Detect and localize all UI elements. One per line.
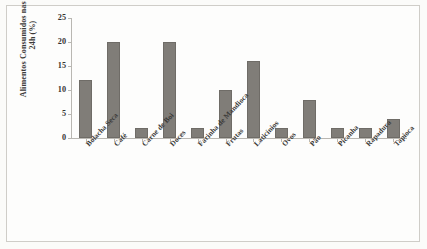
bar-slot bbox=[295, 18, 323, 138]
y-axis-title-line-2: 24h (%) bbox=[28, 21, 37, 50]
y-tick-label: 0 bbox=[62, 133, 66, 142]
x-label-slot: Frutas bbox=[211, 141, 239, 233]
bar-slot bbox=[128, 18, 156, 138]
x-label-slot: Carne de Boi bbox=[127, 141, 155, 233]
bar[interactable] bbox=[79, 80, 92, 138]
bar-slot bbox=[351, 18, 379, 138]
x-label-slot: Ovos bbox=[267, 141, 295, 233]
x-label-slot: Doces bbox=[155, 141, 183, 233]
bar-slot bbox=[184, 18, 212, 138]
bar-series bbox=[72, 18, 407, 138]
y-tick-label: 15 bbox=[58, 61, 66, 70]
bar-slot bbox=[240, 18, 268, 138]
plot-area: 0510152025 bbox=[71, 18, 407, 139]
chart-figure: Alimentos Consumidos nas últimas 24h (%)… bbox=[0, 0, 427, 249]
bar-slot bbox=[323, 18, 351, 138]
bar-slot bbox=[72, 18, 100, 138]
y-axis-title: Alimentos Consumidos nas últimas 24h (%) bbox=[11, 0, 45, 110]
x-label-slot: Laticínios bbox=[239, 141, 267, 233]
y-tick-label: 10 bbox=[58, 85, 66, 94]
y-tick-label: 5 bbox=[62, 109, 66, 118]
y-tick-label: 25 bbox=[58, 13, 66, 22]
y-tick-label: 20 bbox=[58, 37, 66, 46]
bar[interactable] bbox=[247, 61, 260, 138]
x-label-slot: Tapioca bbox=[379, 141, 407, 233]
x-label-slot: Rapadura bbox=[351, 141, 379, 233]
x-label-slot: Farinha de Mandioca bbox=[183, 141, 211, 233]
x-label-slot: Picanha bbox=[323, 141, 351, 233]
y-axis-title-line-1: Alimentos Consumidos nas últimas bbox=[19, 0, 28, 97]
x-label-slot: Pão bbox=[295, 141, 323, 233]
x-axis-labels: Bolacha SecaCaféCarne de BoiDocesFarinha… bbox=[71, 141, 407, 233]
x-label-slot: Bolacha Seca bbox=[71, 141, 99, 233]
bar[interactable] bbox=[303, 100, 316, 138]
x-label-slot: Café bbox=[99, 141, 127, 233]
